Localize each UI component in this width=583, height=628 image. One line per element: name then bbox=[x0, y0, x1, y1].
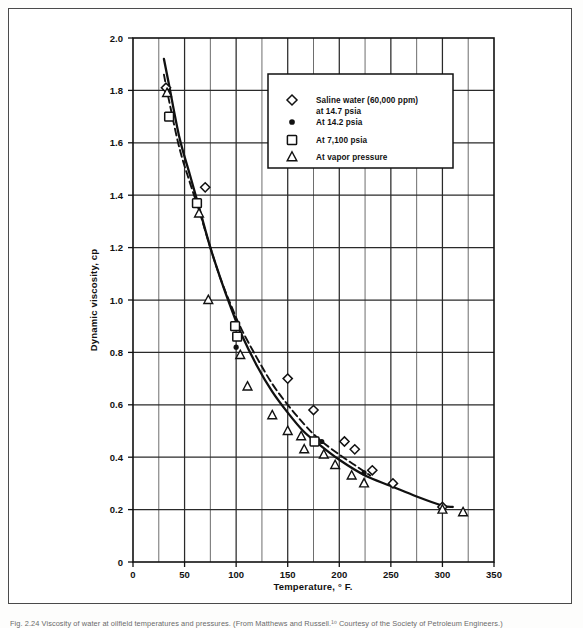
legend-label: At 7,100 psia bbox=[316, 136, 367, 145]
data-point-square bbox=[233, 332, 242, 341]
legend-label-line2: at 14.7 psia bbox=[316, 107, 361, 116]
y-tick-label: 0.6 bbox=[110, 399, 123, 410]
data-point-diamond bbox=[309, 405, 318, 414]
series-filled-circle bbox=[234, 345, 367, 476]
data-point-triangle bbox=[331, 460, 340, 468]
y-tick-label: 2.0 bbox=[110, 33, 123, 44]
x-tick-label: 150 bbox=[280, 569, 296, 580]
y-tick-label: 1.2 bbox=[110, 242, 123, 253]
x-tick-label: 250 bbox=[383, 569, 399, 580]
y-tick-label: 1.8 bbox=[110, 85, 123, 96]
data-point-triangle bbox=[283, 426, 292, 434]
data-point-filled-circle bbox=[234, 345, 239, 350]
data-point-triangle bbox=[204, 295, 213, 303]
data-point-square bbox=[165, 112, 174, 121]
legend-label: Saline water (60,000 ppm) bbox=[316, 96, 418, 105]
x-tick-label: 200 bbox=[331, 569, 347, 580]
data-point-triangle bbox=[236, 350, 245, 358]
data-point-square bbox=[231, 322, 240, 331]
data-point-diamond bbox=[283, 374, 292, 383]
y-tick-label: 0 bbox=[118, 557, 123, 568]
figure-caption: Fig. 2.24 Viscosity of water at oilfield… bbox=[10, 619, 575, 628]
y-tick-label: 1.0 bbox=[110, 295, 123, 306]
chart-legend: Saline water (60,000 ppm)at 14.7 psiaAt … bbox=[268, 74, 453, 168]
chart-container: 050100150200250300350 00.20.40.60.81.01.… bbox=[0, 0, 583, 628]
y-axis-title: Dynamic viscosity, cp bbox=[88, 249, 99, 352]
data-point-diamond bbox=[368, 466, 377, 475]
x-tick-label: 0 bbox=[130, 569, 135, 580]
data-point-filled-circle bbox=[361, 470, 366, 475]
x-tick-label: 100 bbox=[228, 569, 244, 580]
x-tick-label: 50 bbox=[179, 569, 190, 580]
data-point-triangle bbox=[195, 209, 204, 217]
y-tick-label: 1.4 bbox=[110, 190, 124, 201]
y-tick-label: 0.4 bbox=[110, 452, 124, 463]
viscosity-chart: 050100150200250300350 00.20.40.60.81.01.… bbox=[0, 0, 583, 628]
x-axis-tick-labels: 050100150200250300350 bbox=[130, 569, 502, 580]
data-point-diamond bbox=[201, 183, 210, 192]
legend-marker-square bbox=[287, 135, 296, 144]
data-point-square bbox=[310, 437, 319, 446]
data-point-diamond bbox=[350, 445, 359, 454]
x-tick-label: 300 bbox=[434, 569, 450, 580]
y-tick-label: 0.8 bbox=[110, 347, 123, 358]
data-point-square bbox=[193, 199, 202, 208]
x-axis-title: Temperature, ° F. bbox=[273, 581, 352, 592]
data-point-triangle bbox=[243, 382, 252, 390]
y-tick-label: 0.2 bbox=[110, 504, 123, 515]
y-axis-tick-labels: 00.20.40.60.81.01.21.41.61.82.0 bbox=[110, 33, 124, 568]
data-point-triangle bbox=[347, 471, 356, 479]
x-tick-label: 350 bbox=[486, 569, 502, 580]
data-point-triangle bbox=[459, 507, 468, 515]
legend-label: At vapor pressure bbox=[316, 153, 388, 162]
legend-label: At 14.2 psia bbox=[316, 118, 363, 127]
data-point-diamond bbox=[340, 437, 349, 446]
scanned-page: 050100150200250300350 00.20.40.60.81.01.… bbox=[0, 0, 583, 628]
data-point-triangle bbox=[268, 410, 277, 418]
y-tick-label: 1.6 bbox=[110, 137, 123, 148]
data-point-triangle bbox=[360, 479, 369, 487]
data-point-triangle bbox=[300, 445, 309, 453]
legend-marker-filled-circle bbox=[289, 119, 295, 125]
data-point-filled-circle bbox=[319, 439, 324, 444]
